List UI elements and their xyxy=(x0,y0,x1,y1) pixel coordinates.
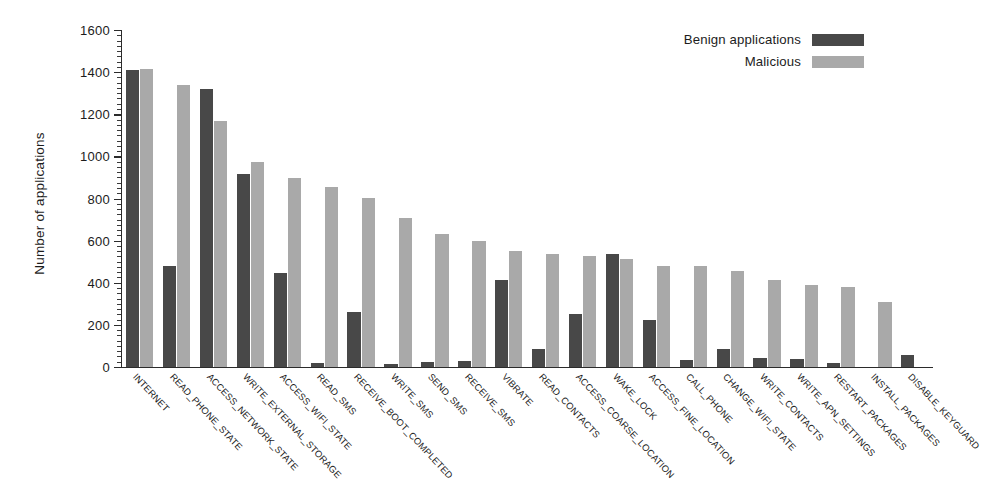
x-axis-tick-label: RESTART_PACKAGES xyxy=(832,371,909,453)
bar-benign xyxy=(237,174,250,367)
y-axis-tick-label: 0 xyxy=(102,361,110,374)
bar-malicious xyxy=(251,162,264,367)
y-axis-minor-tick xyxy=(117,193,121,194)
y-axis-minor-tick xyxy=(117,67,121,68)
y-axis-tick xyxy=(114,199,121,200)
y-axis-minor-tick xyxy=(117,304,121,305)
y-axis-minor-tick xyxy=(117,177,121,178)
bar-benign xyxy=(495,280,508,367)
bar-malicious xyxy=(768,280,781,367)
y-axis-minor-tick xyxy=(117,109,121,110)
y-axis-minor-tick xyxy=(117,267,121,268)
bar-group xyxy=(421,30,458,367)
y-axis-minor-tick xyxy=(117,214,121,215)
y-axis-minor-tick xyxy=(117,209,121,210)
y-axis-minor-tick xyxy=(117,330,121,331)
bar-malicious xyxy=(399,218,412,367)
y-axis-minor-tick xyxy=(117,277,121,278)
bar-group xyxy=(790,30,827,367)
bar-malicious xyxy=(841,287,854,367)
bar-malicious xyxy=(214,121,227,367)
bar-group xyxy=(347,30,384,367)
bar-group xyxy=(311,30,348,367)
bar-group xyxy=(864,30,901,367)
y-axis-minor-tick xyxy=(117,235,121,236)
y-axis-minor-tick xyxy=(117,35,121,36)
y-axis-minor-tick xyxy=(117,172,121,173)
y-axis-minor-tick xyxy=(117,51,121,52)
y-axis-minor-tick xyxy=(117,251,121,252)
legend-label: Benign applications xyxy=(684,32,801,47)
y-axis-minor-tick xyxy=(117,246,121,247)
y-axis-minor-tick xyxy=(117,293,121,294)
y-axis-minor-tick xyxy=(117,46,121,47)
y-axis-minor-tick xyxy=(117,272,121,273)
y-axis-tick xyxy=(114,241,121,242)
bar-group xyxy=(606,30,643,367)
bar-group xyxy=(643,30,680,367)
y-axis-tick-label: 1400 xyxy=(80,66,110,79)
bar-group xyxy=(200,30,237,367)
y-axis-minor-tick xyxy=(117,351,121,352)
bar-malicious xyxy=(325,187,338,367)
y-axis-minor-tick xyxy=(117,183,121,184)
bar-group xyxy=(274,30,311,367)
bar-malicious xyxy=(731,271,744,367)
y-axis-minor-tick xyxy=(117,104,121,105)
x-axis-tick-label: CHANGE_WIFI_STATE xyxy=(721,371,798,453)
y-axis-minor-tick xyxy=(117,135,121,136)
bar-benign xyxy=(753,358,766,367)
y-axis-minor-tick xyxy=(117,151,121,152)
y-axis-tick xyxy=(114,114,121,115)
y-axis-tick xyxy=(114,283,121,284)
bar-malicious xyxy=(140,69,153,367)
y-axis-minor-tick xyxy=(117,356,121,357)
bar-benign xyxy=(643,320,656,367)
y-axis-tick xyxy=(114,30,121,31)
bar-group xyxy=(901,30,938,367)
y-axis-tick-label: 1200 xyxy=(80,108,110,121)
y-axis-minor-tick xyxy=(117,120,121,121)
bar-group xyxy=(532,30,569,367)
bar-group xyxy=(458,30,495,367)
bar-benign xyxy=(274,273,287,367)
y-axis-minor-tick xyxy=(117,362,121,363)
y-axis-minor-tick xyxy=(117,288,121,289)
bar-benign xyxy=(126,70,139,367)
bar-malicious xyxy=(583,256,596,367)
y-axis-minor-tick xyxy=(117,83,121,84)
bar-benign xyxy=(790,359,803,367)
y-axis-tick xyxy=(114,367,121,368)
y-axis-minor-tick xyxy=(117,335,121,336)
y-axis-tick-label: 1600 xyxy=(80,24,110,37)
bar-group xyxy=(384,30,421,367)
x-axis-tick-label: INSTALL_PACKAGES xyxy=(869,371,942,449)
bar-benign xyxy=(384,364,397,367)
y-axis-minor-tick xyxy=(117,62,121,63)
y-axis-tick xyxy=(114,325,121,326)
y-axis-minor-tick xyxy=(117,41,121,42)
bar-benign xyxy=(532,349,545,367)
bar-malicious xyxy=(694,266,707,367)
bar-group xyxy=(237,30,274,367)
y-axis-minor-tick xyxy=(117,341,121,342)
y-axis-tick-label: 400 xyxy=(87,276,110,289)
bar-group xyxy=(495,30,532,367)
y-axis-tick xyxy=(114,156,121,157)
bar-group xyxy=(680,30,717,367)
y-axis-tick-label: 200 xyxy=(87,318,110,331)
legend-label: Malicious xyxy=(745,54,801,69)
bar-benign xyxy=(458,361,471,367)
bar-benign xyxy=(421,362,434,367)
bar-malicious xyxy=(288,178,301,367)
y-axis-minor-tick xyxy=(117,230,121,231)
bar-group xyxy=(163,30,200,367)
y-axis-minor-tick xyxy=(117,56,121,57)
x-axis-line xyxy=(121,367,933,368)
y-axis-minor-tick xyxy=(117,299,121,300)
y-axis-minor-tick xyxy=(117,141,121,142)
y-axis-minor-tick xyxy=(117,256,121,257)
bar-malicious xyxy=(805,285,818,367)
bar-group xyxy=(569,30,606,367)
bar-benign xyxy=(827,363,840,367)
